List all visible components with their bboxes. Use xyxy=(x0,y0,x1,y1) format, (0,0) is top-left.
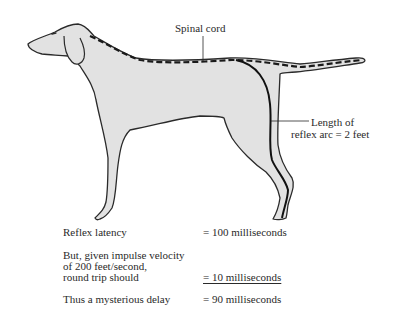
calc-label-line: Reflex latency xyxy=(63,227,127,238)
calc-label-mysterious-delay: Thus a mysterious delay xyxy=(63,294,170,305)
calc-label-reflex-latency: Reflex latency xyxy=(63,227,127,238)
calc-label-line: Thus a mysterious delay xyxy=(63,294,170,305)
calc-value-mysterious-delay: = 90 milliseconds xyxy=(203,294,281,305)
calc-value-reflex-latency: = 100 milliseconds xyxy=(203,227,287,238)
calc-label-line: round trip should xyxy=(63,272,185,283)
calculation-block: Reflex latency = 100 milliseconds But, g… xyxy=(0,0,398,316)
calc-value-expected-round-trip: = 10 milliseconds xyxy=(203,272,281,283)
calc-label-expected-round-trip: But, given impulse velocity of 200 feet/… xyxy=(63,250,185,283)
